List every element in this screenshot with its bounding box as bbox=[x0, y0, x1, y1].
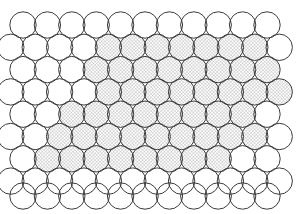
circle-packing-figure bbox=[0, 0, 304, 214]
circle-lattice-canvas bbox=[0, 0, 304, 214]
